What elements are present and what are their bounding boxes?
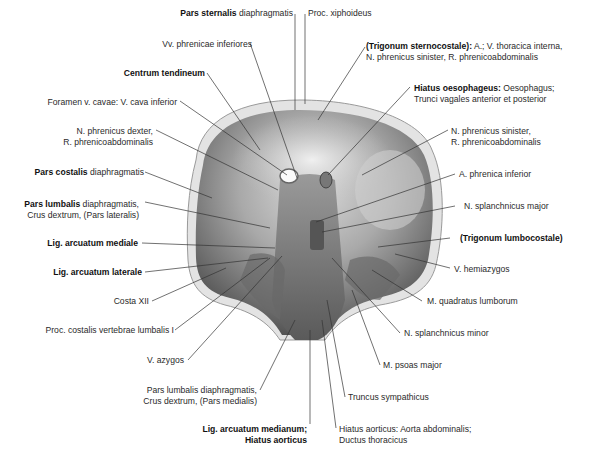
label-a-phrenica-inferior: A. phrenica inferior bbox=[459, 169, 531, 180]
label-trigonum-sternocostale: (Trigonum sternocostale): A.; V. thoraci… bbox=[366, 41, 562, 63]
label-v-hemiazygos: V. hemiazygos bbox=[454, 264, 510, 275]
label-truncus-sympathicus: Truncus sympathicus bbox=[348, 392, 429, 403]
label-hiatus-aorticus: Hiatus aorticus: Aorta abdominalis; Duct… bbox=[339, 424, 471, 446]
label-pars-lumbalis-lateralis: Pars lumbalis diaphragmatis, Crus dextru… bbox=[24, 199, 139, 221]
label-n-splanchnicus-minor: N. splanchnicus minor bbox=[404, 328, 489, 339]
label-m-psoas-major: M. psoas major bbox=[383, 360, 442, 371]
label-hiatus-oesophageus: Hiatus oesophageus: Oesophagus; Trunci v… bbox=[414, 83, 554, 105]
label-n-phrenicus-dexter: N. phrenicus dexter, R. phrenicoabdomina… bbox=[63, 126, 153, 148]
label-vv-phrenicae-inferiores: Vv. phrenicae inferiores bbox=[162, 39, 252, 50]
label-pars-costalis: Pars costalis diaphragmatis bbox=[35, 167, 144, 178]
label-m-quadratus-lumborum: M. quadratus lumborum bbox=[427, 296, 518, 307]
label-costa-xii: Costa XII bbox=[114, 296, 149, 307]
label-centrum-tendineum: Centrum tendineum bbox=[124, 68, 205, 79]
label-trigonum-lumbocostale: (Trigonum lumbocostale) bbox=[460, 233, 563, 244]
label-proc-xiphoideus: Proc. xiphoideus bbox=[308, 8, 372, 19]
label-n-splanchnicus-major: N. splanchnicus major bbox=[464, 201, 549, 212]
label-pars-sternalis: Pars sternalis diaphragmatis bbox=[180, 8, 293, 19]
label-foramen-v-cavae: Foramen v. cavae: V. cava inferior bbox=[48, 97, 177, 108]
label-v-azygos: V. azygos bbox=[147, 355, 184, 366]
label-n-phrenicus-sinister: N. phrenicus sinister, R. phrenicoabdomi… bbox=[451, 126, 541, 148]
label-proc-costalis: Proc. costalis vertebrae lumbalis I bbox=[46, 325, 174, 336]
label-lig-arcuatum-laterale: Lig. arcuatum laterale bbox=[53, 267, 142, 278]
label-pars-lumbalis-medialis: Pars lumbalis diaphragmatis, Crus dextru… bbox=[143, 385, 257, 407]
label-lig-arcuatum-medianum: Lig. arcuatum medianum; Hiatus aorticus bbox=[202, 424, 307, 446]
diaphragm-illustration bbox=[0, 0, 590, 460]
label-lig-arcuatum-mediale: Lig. arcuatum mediale bbox=[47, 238, 138, 249]
